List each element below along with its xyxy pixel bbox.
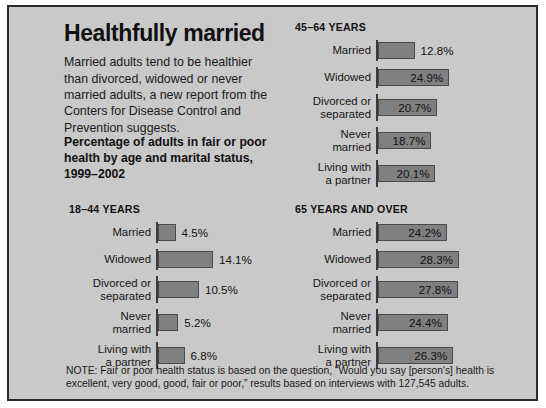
bar-track: 24.2%	[376, 222, 527, 243]
bar: 28.3%	[378, 251, 459, 268]
bar-track: 10.5%	[156, 276, 287, 303]
chart-title: 45–64 YEARS	[295, 21, 527, 33]
page-title: Healthfully married	[64, 21, 279, 45]
category-label: Never married	[295, 128, 376, 154]
bar-row: Never married24.4%	[295, 309, 527, 336]
bar: 26.3%	[378, 347, 453, 364]
headline-block: Healthfully married Married adults tend …	[64, 21, 279, 136]
chart-rows: Married24.2%Widowed28.3%Divorced or sepa…	[295, 222, 527, 369]
bar	[378, 42, 415, 59]
bar-track: 20.7%	[376, 94, 527, 121]
subhead-text: Percentage of adults in fair or poor hea…	[64, 134, 279, 183]
bar-value-label: 24.9%	[410, 71, 448, 84]
category-label: Widowed	[295, 253, 376, 266]
bar-track: 20.1%	[376, 160, 527, 187]
bar	[158, 251, 213, 268]
bar: 24.2%	[378, 224, 447, 241]
bar-row: Never married5.2%	[69, 309, 287, 336]
bar-track: 12.8%	[376, 40, 527, 61]
bar-value-label: 24.4%	[409, 316, 447, 329]
category-label: Married	[295, 226, 376, 239]
bar-row: Divorced or separated27.8%	[295, 276, 527, 303]
chart-65-over: 65 YEARS AND OVER Married24.2%Widowed28.…	[295, 203, 527, 375]
bar: 20.7%	[378, 99, 437, 116]
category-label: Widowed	[295, 71, 376, 84]
bar-track: 24.9%	[376, 67, 527, 88]
chart-45-64: 45–64 YEARS Married12.8%Widowed24.9%Divo…	[295, 21, 527, 193]
bar-track: 5.2%	[156, 309, 287, 336]
chart-rows: Married12.8%Widowed24.9%Divorced or sepa…	[295, 40, 527, 187]
infographic-panel: Healthfully married Married adults tend …	[7, 5, 538, 401]
bar: 20.1%	[378, 165, 435, 182]
bar-row: Widowed14.1%	[69, 249, 287, 270]
bar-track: 4.5%	[156, 222, 287, 243]
bar-row: Widowed24.9%	[295, 67, 527, 88]
chart-title: 18–44 YEARS	[69, 203, 287, 215]
category-label: Divorced or separated	[295, 95, 376, 121]
category-label: Never married	[69, 310, 156, 336]
bar-value-label: 20.7%	[398, 101, 436, 114]
bar-value-label: 10.5%	[199, 283, 238, 296]
bar-row: Living with a partner20.1%	[295, 160, 527, 187]
category-label: Widowed	[69, 253, 156, 266]
category-label: Divorced or separated	[295, 277, 376, 303]
bar: 24.4%	[378, 314, 448, 331]
bar-value-label: 18.7%	[393, 134, 431, 147]
bar-row: Divorced or separated10.5%	[69, 276, 287, 303]
bar-track: 24.4%	[376, 309, 527, 336]
bar-row: Married12.8%	[295, 40, 527, 61]
chart-18-44: 18–44 YEARS Married4.5%Widowed14.1%Divor…	[69, 203, 287, 375]
chart-rows: Married4.5%Widowed14.1%Divorced or separ…	[69, 222, 287, 369]
chart-title: 65 YEARS AND OVER	[295, 203, 527, 215]
footnote: NOTE: Fair or poor health status is base…	[66, 364, 521, 390]
bar-track: 18.7%	[376, 127, 527, 154]
bar	[158, 314, 178, 331]
bar	[158, 347, 185, 364]
bar-value-label: 28.3%	[420, 253, 458, 266]
bar-value-label: 26.3%	[414, 349, 452, 362]
bar-value-label: 6.8%	[185, 349, 217, 362]
bar-row: Never married18.7%	[295, 127, 527, 154]
bar-value-label: 27.8%	[419, 283, 457, 296]
bar: 18.7%	[378, 132, 431, 149]
deck-text: Married adults tend to be healthier than…	[64, 54, 279, 136]
bar-track: 14.1%	[156, 249, 287, 270]
bar-track: 28.3%	[376, 249, 527, 270]
bar-row: Divorced or separated20.7%	[295, 94, 527, 121]
bar-value-label: 20.1%	[397, 167, 435, 180]
bar: 24.9%	[378, 69, 449, 86]
bar-row: Widowed28.3%	[295, 249, 527, 270]
category-label: Married	[295, 44, 376, 57]
bar-value-label: 14.1%	[213, 253, 252, 266]
bar: 27.8%	[378, 281, 458, 298]
category-label: Never married	[295, 310, 376, 336]
bar-value-label: 12.8%	[415, 44, 454, 57]
category-label: Living with a partner	[295, 161, 376, 187]
bar-value-label: 24.2%	[408, 226, 446, 239]
bar-row: Married24.2%	[295, 222, 527, 243]
bar	[158, 281, 199, 298]
bar-value-label: 5.2%	[178, 316, 210, 329]
bar-track: 27.8%	[376, 276, 527, 303]
bar-row: Married4.5%	[69, 222, 287, 243]
category-label: Divorced or separated	[69, 277, 156, 303]
bar-value-label: 4.5%	[176, 226, 208, 239]
category-label: Married	[69, 226, 156, 239]
bar	[158, 224, 176, 241]
